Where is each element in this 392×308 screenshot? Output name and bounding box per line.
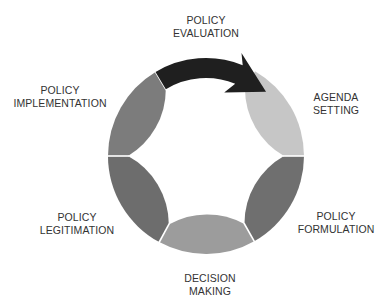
label-policy-legitimation: POLICY LEGITIMATION xyxy=(40,211,115,237)
label-policy-formulation-line1: POLICY xyxy=(298,210,375,223)
segment-policy-implementation xyxy=(108,72,166,156)
label-policy-evaluation-line1: POLICY xyxy=(173,14,239,27)
label-agenda-setting-line2: SETTING xyxy=(313,104,359,117)
label-decision-making: DECISION MAKING xyxy=(184,272,236,298)
label-policy-legitimation-line2: LEGITIMATION xyxy=(40,224,115,237)
label-decision-making-line1: DECISION xyxy=(184,272,236,285)
label-policy-evaluation-line2: EVALUATION xyxy=(173,27,239,40)
label-policy-formulation-line2: FORMULATION xyxy=(298,223,375,236)
label-decision-making-line2: MAKING xyxy=(184,285,236,298)
label-agenda-setting-line1: AGENDA xyxy=(313,91,359,104)
label-policy-evaluation: POLICY EVALUATION xyxy=(173,14,239,40)
label-policy-legitimation-line1: POLICY xyxy=(40,211,115,224)
segment-policy-evaluation-arrow xyxy=(156,53,266,93)
label-policy-implementation-line1: POLICY xyxy=(13,84,106,97)
label-policy-implementation-line2: IMPLEMENTATION xyxy=(13,97,106,110)
segment-policy-legitimation xyxy=(108,156,169,242)
segment-decision-making xyxy=(159,214,254,254)
segment-policy-formulation xyxy=(244,156,304,241)
label-agenda-setting: AGENDA SETTING xyxy=(313,91,359,117)
policy-cycle-ring xyxy=(0,0,392,308)
label-policy-formulation: POLICY FORMULATION xyxy=(298,210,375,236)
label-policy-implementation: POLICY IMPLEMENTATION xyxy=(13,84,106,110)
